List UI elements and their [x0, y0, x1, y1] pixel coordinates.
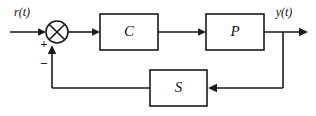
wire-plant-to-output	[264, 28, 308, 36]
block-plant[interactable]: P	[206, 14, 264, 50]
block-diagram-canvas: + – C P S r(t) y(t)	[0, 0, 316, 116]
block-sensor-label: S	[175, 79, 183, 95]
arrowhead-controller-in	[92, 28, 100, 36]
wire-controller-to-plant	[158, 28, 206, 36]
wire-sensor-to-sum	[48, 45, 150, 88]
plus-sign-label: +	[41, 37, 48, 51]
arrowhead-sum-feedback-in	[48, 45, 56, 54]
block-diagram-svg: + – C P S r(t) y(t)	[0, 0, 316, 116]
arrowhead-output	[299, 28, 308, 36]
block-plant-label: P	[229, 23, 239, 39]
arrowhead-plant-in	[198, 28, 206, 36]
block-sensor[interactable]: S	[150, 70, 207, 106]
signal-label-reference: r(t)	[14, 5, 30, 19]
arrowhead-sensor-in	[208, 84, 217, 92]
signal-label-output: y(t)	[275, 5, 293, 19]
summing-junction[interactable]	[46, 21, 68, 43]
block-controller[interactable]: C	[100, 14, 158, 50]
wire-reference-to-sum	[10, 28, 46, 36]
block-controller-label: C	[124, 23, 135, 39]
minus-sign-label: –	[40, 55, 48, 69]
wire-sum-to-controller	[68, 28, 100, 36]
arrowhead-reference	[38, 28, 46, 36]
